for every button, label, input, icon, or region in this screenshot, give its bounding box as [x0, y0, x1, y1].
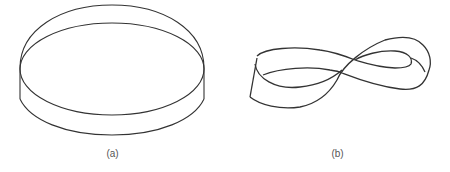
caption-b: (b)	[225, 148, 450, 159]
cylinder-band-drawing	[0, 0, 225, 172]
caption-a: (a)	[0, 148, 225, 159]
mobius-strip-drawing	[225, 0, 450, 172]
panel-b: (b)	[225, 0, 450, 172]
panel-a: (a)	[0, 0, 225, 172]
